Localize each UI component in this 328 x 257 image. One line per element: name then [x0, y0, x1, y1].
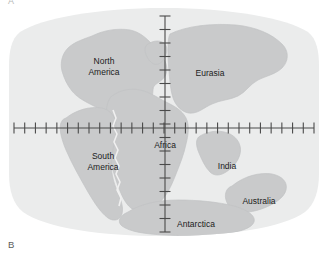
world-map: North AmericaEurasiaAfricaSouth AmericaI… [0, 6, 328, 238]
panel-letter-b: B [8, 240, 15, 250]
world-map-svg [0, 6, 328, 238]
figure-panel-b: A [0, 0, 328, 257]
